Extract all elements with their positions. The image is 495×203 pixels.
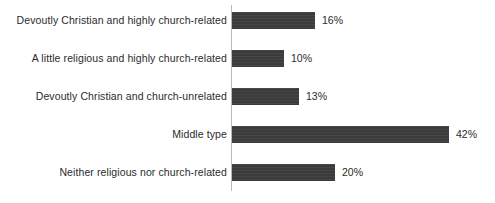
category-label-0: Devoutly Christian and highly church-rel… (0, 12, 227, 29)
bar-rows: Devoutly Christian and highly church-rel… (0, 0, 495, 203)
bar-2 (232, 88, 299, 105)
bar-0 (232, 12, 315, 29)
bar-group-1: 10% (232, 50, 312, 67)
bar-group-0: 16% (232, 12, 343, 29)
bar-value-0: 16% (322, 12, 343, 29)
table-row: Neither religious nor church-related 20% (0, 164, 495, 181)
category-label-3: Middle type (0, 126, 227, 143)
bar-value-1: 10% (291, 50, 312, 67)
table-row: Devoutly Christian and church-unrelated … (0, 88, 495, 105)
category-label-4: Neither religious nor church-related (0, 164, 227, 181)
category-label-1: A little religious and highly church-rel… (0, 50, 227, 67)
bar-3 (232, 126, 449, 143)
bar-value-3: 42% (456, 126, 477, 143)
bar-group-4: 20% (232, 164, 363, 181)
bar-value-4: 20% (342, 164, 363, 181)
bar-chart: Devoutly Christian and highly church-rel… (0, 0, 495, 203)
bar-value-2: 13% (306, 88, 327, 105)
table-row: Devoutly Christian and highly church-rel… (0, 12, 495, 29)
table-row: Middle type 42% (0, 126, 495, 143)
bar-1 (232, 50, 284, 67)
category-label-2: Devoutly Christian and church-unrelated (0, 88, 227, 105)
table-row: A little religious and highly church-rel… (0, 50, 495, 67)
bar-4 (232, 164, 335, 181)
bar-group-3: 42% (232, 126, 477, 143)
bar-group-2: 13% (232, 88, 327, 105)
